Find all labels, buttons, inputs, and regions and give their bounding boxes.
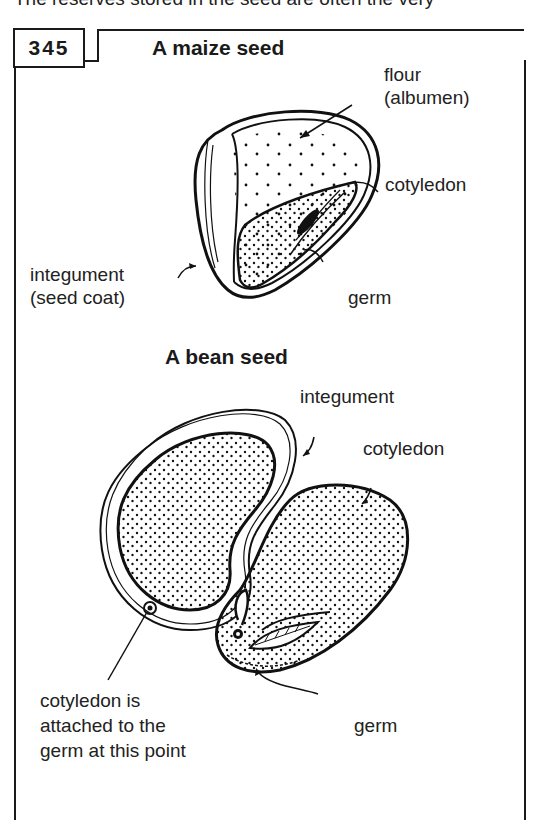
label-bean-integument: integument <box>300 385 394 408</box>
label-maize-cotyledon: cotyledon <box>385 173 466 196</box>
maize-seed-drawing <box>178 105 379 298</box>
label-attach-2: attached to the <box>40 714 166 737</box>
label-seed-coat: (seed coat) <box>30 286 125 309</box>
label-albumen: (albumen) <box>384 86 470 109</box>
label-flour: flour <box>384 63 421 86</box>
label-attach-3: germ at this point <box>40 739 186 762</box>
label-attach-1: cotyledon is <box>40 689 140 712</box>
label-bean-cotyledon: cotyledon <box>363 437 444 460</box>
bean-title: A bean seed <box>165 345 288 369</box>
label-maize-integument: integument <box>30 263 124 286</box>
label-bean-germ: germ <box>354 714 397 737</box>
label-maize-germ: germ <box>348 286 391 309</box>
